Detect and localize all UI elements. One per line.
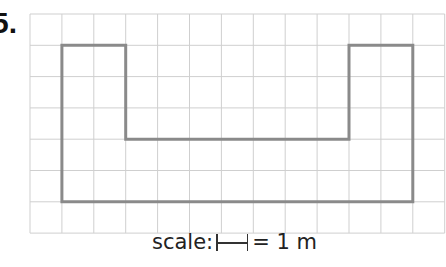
- scale-label: scale:: [152, 230, 213, 254]
- scale-caption: scale: = 1 m: [152, 230, 317, 254]
- grid-lines: [30, 14, 445, 233]
- scale-bar-icon: [216, 234, 248, 250]
- u-shaped-figure: [62, 45, 413, 202]
- scale-value: = 1 m: [252, 230, 317, 254]
- grid-diagram: [0, 0, 446, 267]
